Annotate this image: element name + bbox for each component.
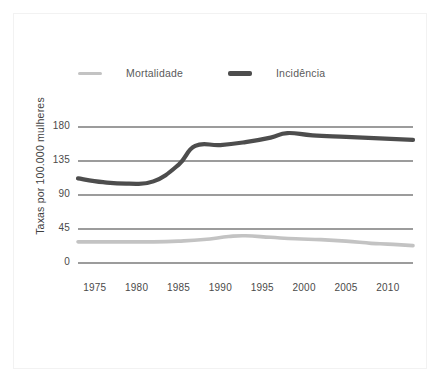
x-axis-tick-label: 1995	[242, 282, 282, 293]
series-line-mortalidade	[78, 236, 413, 246]
x-axis-tick-label: 1980	[117, 282, 157, 293]
series-line-incidncia	[78, 133, 413, 184]
x-axis-tick-label: 2005	[326, 282, 366, 293]
x-axis-tick-label: 2000	[284, 282, 324, 293]
x-axis-tick-label: 2010	[368, 282, 408, 293]
x-axis-tick-label: 1975	[75, 282, 115, 293]
chart-plot-area: 04590135180 1975198019851990199520002005…	[0, 0, 440, 382]
x-axis-tick-label: 1990	[200, 282, 240, 293]
y-axis-tick-label: 0	[40, 256, 70, 267]
y-axis-title: Taxas por 100.000 mulheres	[34, 86, 46, 246]
chart-page: Mortalidade Incidência 04590135180 19751…	[0, 0, 440, 382]
x-axis-tick-label: 1985	[159, 282, 199, 293]
